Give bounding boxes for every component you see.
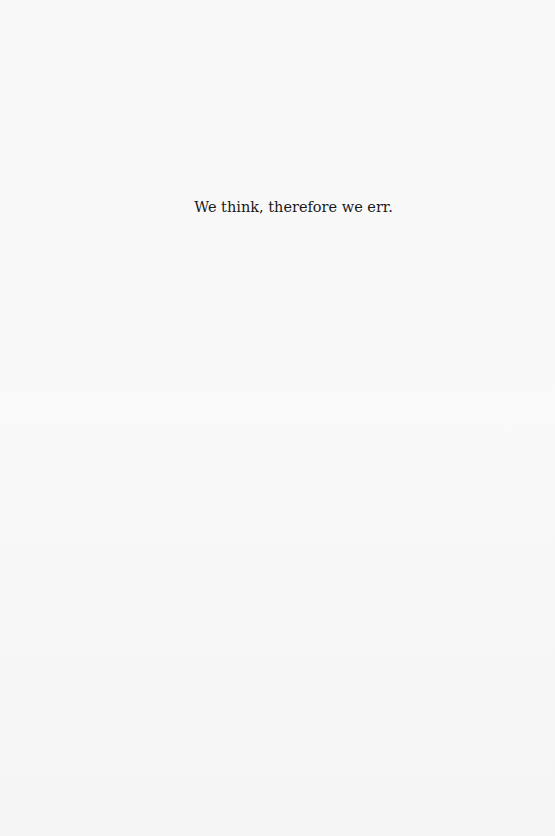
document-page: We think, therefore we err. <box>0 0 555 836</box>
epigraph-text: We think, therefore we err. <box>0 198 555 216</box>
